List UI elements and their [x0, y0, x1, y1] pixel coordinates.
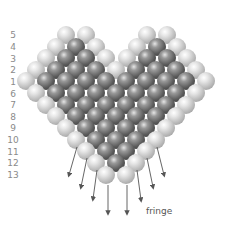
fringe-arrow: [137, 170, 141, 200]
fringe-arrow: [81, 158, 87, 187]
fringe-arrow: [147, 158, 153, 187]
fringe-arrow: [157, 147, 164, 175]
fringe-arrows: [0, 0, 228, 226]
fringe-label: fringe: [146, 206, 172, 216]
beaded-heart-diagram: 54321678910111213 fringe: [0, 0, 228, 226]
fringe-arrow: [93, 170, 97, 199]
fringe-arrow: [69, 147, 77, 175]
